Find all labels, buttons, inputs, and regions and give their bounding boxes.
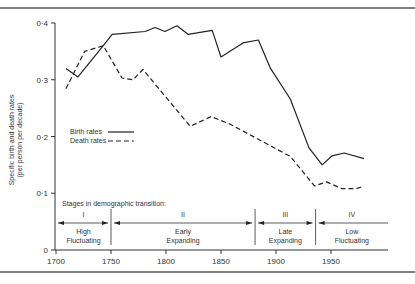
arrow-left-icon (258, 221, 264, 225)
stages: Stages in demographic transition:IHighFl… (56, 200, 388, 245)
legend-birth-label: Birth rates (70, 128, 102, 135)
y-tick-label: 0·3 (36, 76, 48, 85)
legend: Birth rates Death rates (70, 128, 134, 144)
stage-label-line1: Low (345, 228, 359, 235)
stages-title: Stages in demographic transition: (62, 200, 166, 208)
y-tick-label: 0·4 (36, 19, 48, 28)
svg-text:Specific birth and death rates: Specific birth and death rates (8, 94, 16, 185)
stage-numeral: IV (348, 211, 355, 218)
arrow-left-icon (319, 221, 325, 225)
arrow-left-icon (58, 221, 64, 225)
arrow-right-icon (246, 221, 252, 225)
demographic-transition-chart: 00·10·20·30·4170017501800185019001950 St… (0, 0, 415, 284)
stage-label-line2: Fluctuating (66, 237, 100, 245)
x-tick-label: 1800 (157, 257, 175, 266)
svg-text:(per person per decade): (per person per decade) (16, 102, 24, 177)
arrow-right-icon (307, 221, 313, 225)
stage-label-line2: Expanding (167, 237, 200, 245)
x-tick-label: 1750 (102, 257, 120, 266)
legend-death-label: Death rates (70, 137, 107, 144)
series (66, 26, 364, 189)
stage-numeral: I (83, 211, 85, 218)
arrow-left-icon (114, 221, 120, 225)
stage-label-line1: Late (279, 228, 293, 235)
stage-label-line2: Expanding (269, 237, 302, 245)
y-axis-label: Specific birth and death rates (per pers… (8, 94, 24, 185)
stage-label-line1: High (76, 228, 91, 236)
y-tick-label: 0·1 (36, 189, 48, 198)
stage-label-line1: Early (175, 228, 191, 236)
arrow-right-icon (102, 221, 108, 225)
y-tick-label: 0 (44, 246, 49, 255)
death-rates-line (66, 46, 364, 189)
stage-numeral: III (282, 211, 288, 218)
stage-label-line2: Fluctuating (335, 237, 369, 245)
x-tick-label: 1950 (322, 257, 340, 266)
birth-rates-line (66, 26, 364, 165)
y-tick-label: 0·2 (36, 133, 48, 142)
x-tick-label: 1900 (267, 257, 285, 266)
x-tick-label: 1700 (47, 257, 65, 266)
stage-numeral: II (181, 211, 185, 218)
x-tick-label: 1850 (212, 257, 230, 266)
